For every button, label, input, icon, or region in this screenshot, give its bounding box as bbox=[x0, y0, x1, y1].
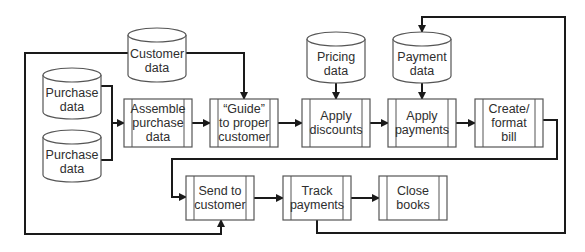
data-store-pricing-data[interactable] bbox=[307, 32, 365, 83]
connector-customer-data-to-guide-to-proper-customer bbox=[186, 53, 244, 99]
data-store-purchase-data-2[interactable] bbox=[43, 130, 101, 182]
process-assemble-purchase-data[interactable] bbox=[124, 99, 192, 147]
data-store-payment-data[interactable] bbox=[393, 32, 451, 83]
process-create-format-bill[interactable] bbox=[475, 99, 543, 147]
flowchart-canvas bbox=[0, 0, 585, 252]
data-store-purchase-data-1[interactable] bbox=[43, 68, 101, 119]
process-apply-payments[interactable] bbox=[388, 99, 456, 147]
process-close-books[interactable] bbox=[379, 176, 447, 220]
connector-purchase-data-2-to-assemble-purchase-data bbox=[101, 123, 112, 160]
data-store-customer-data[interactable] bbox=[128, 28, 186, 82]
process-send-to-customer[interactable] bbox=[186, 176, 254, 220]
connector-purchase-data-1-to-assemble-purchase-data bbox=[101, 86, 124, 123]
process-apply-discounts[interactable] bbox=[302, 99, 370, 147]
process-track-payments[interactable] bbox=[283, 176, 351, 220]
process-guide-to-proper-customer[interactable] bbox=[210, 99, 278, 147]
